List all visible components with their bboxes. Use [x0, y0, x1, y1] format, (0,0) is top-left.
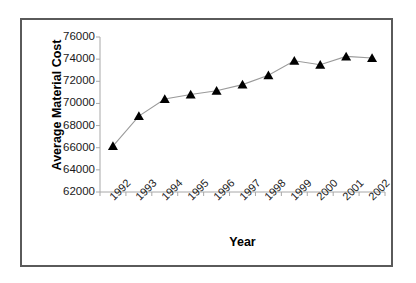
plot-area: [100, 37, 385, 192]
data-point-marker: [238, 80, 248, 89]
data-point-marker: [341, 52, 351, 61]
y-axis-tick-label: 70000: [49, 97, 95, 108]
chart-figure: Average Material Cost 760007400072000700…: [0, 0, 416, 283]
y-axis-tick-label: 62000: [49, 186, 95, 197]
data-point-marker: [263, 70, 273, 79]
y-axis-tick-label: 66000: [49, 142, 95, 153]
x-axis-title: Year: [100, 235, 385, 249]
data-point-marker: [289, 56, 299, 65]
chart-plot-svg: [100, 37, 385, 192]
data-series-line: [113, 56, 372, 146]
x-axis-tick-labels: 1992199319941995199619971998199920002001…: [100, 194, 385, 234]
data-series-markers: [108, 52, 377, 150]
y-axis-tick-labels: 7600074000720007000068000660006400062000: [47, 37, 95, 192]
y-axis-tick-label: 64000: [49, 164, 95, 175]
y-axis-tick-label: 72000: [49, 75, 95, 86]
y-axis-tick-label: 68000: [49, 120, 95, 131]
data-point-marker: [134, 111, 144, 120]
y-axis-tick-label: 74000: [49, 53, 95, 64]
y-axis-tick-label: 76000: [49, 31, 95, 42]
